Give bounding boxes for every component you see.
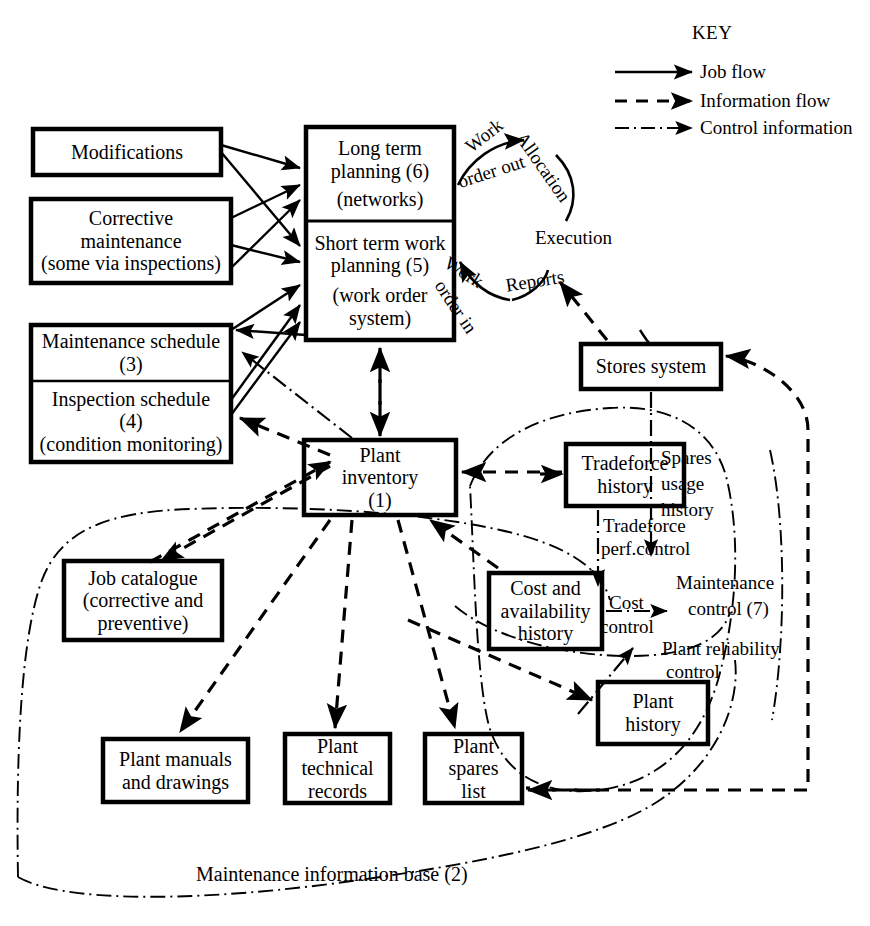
job-flow-edges xyxy=(221,145,306,415)
edge-label-maintenance-control-line1: Maintenance xyxy=(676,572,774,594)
edge-label-plant-reliability-control-line2: control xyxy=(666,661,720,683)
key-label-control-information: Control information xyxy=(700,117,853,139)
edge-label-cost-control-line2: control xyxy=(600,616,654,638)
edge-label-tradeforce-perf-control-line1: Tradeforce xyxy=(603,515,686,537)
edge-label-plant-reliability-control-line1: Plant reliability xyxy=(662,638,780,660)
diagram-canvas: KEY Job flow Information flow Control in… xyxy=(0,0,870,926)
diagram-caption: Maintenance information base (2) xyxy=(196,863,468,886)
edge-label-spares-usage-history-line1: Spares xyxy=(661,447,712,469)
key-label-job-flow: Job flow xyxy=(700,61,766,83)
box-outlines xyxy=(31,127,721,803)
edge-label-maintenance-control-line2: control (7) xyxy=(688,598,769,620)
key-sample-lines xyxy=(615,72,692,128)
edge-label-spares-usage-history-line2: usage xyxy=(661,473,704,495)
key-label-information-flow: Information flow xyxy=(700,90,830,112)
edge-label-cost-control-line1: Cost xyxy=(609,592,644,614)
key-title: KEY xyxy=(692,22,732,44)
edge-label-execution: Execution xyxy=(535,227,612,249)
edge-label-tradeforce-perf-control-line2: perf.control xyxy=(601,538,690,560)
